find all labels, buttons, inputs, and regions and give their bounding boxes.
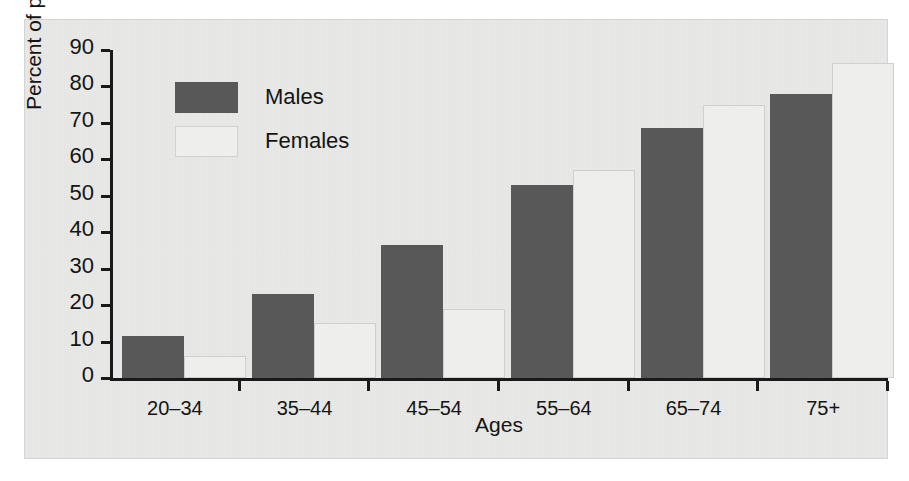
bar-females-75+ — [832, 63, 894, 378]
x-axis-category-label: 75+ — [758, 397, 888, 419]
x-axis-tick — [238, 381, 241, 391]
y-axis-tick-label: 10 — [70, 328, 94, 350]
x-axis-category-label: 35–44 — [240, 397, 370, 419]
legend-swatch-males-icon — [175, 82, 238, 113]
bar-females-20–34 — [184, 356, 246, 378]
x-axis-category-label: 45–54 — [369, 397, 499, 419]
y-axis-tick-label: 30 — [70, 255, 94, 277]
x-axis-tick — [756, 381, 759, 391]
bar-males-45–54 — [381, 245, 443, 378]
y-axis-tick-label: 20 — [70, 291, 94, 313]
legend-label-females: Females — [265, 130, 349, 152]
y-axis-tick: 60 — [101, 158, 110, 161]
x-axis-tick — [886, 381, 889, 391]
bar-males-65–74 — [641, 128, 703, 378]
bar-males-20–34 — [122, 336, 184, 378]
y-axis-tick-label: 90 — [70, 36, 94, 58]
x-axis-category-label: 55–64 — [499, 397, 629, 419]
x-axis-category-label: 20–34 — [110, 397, 240, 419]
bar-males-35–44 — [252, 294, 314, 378]
x-axis-tick — [627, 381, 630, 391]
bar-females-35–44 — [314, 323, 376, 378]
bar-males-75+ — [770, 94, 832, 378]
y-axis-tick: 90 — [101, 49, 110, 52]
x-axis-category-label: 65–74 — [629, 397, 759, 419]
x-axis-tick — [367, 381, 370, 391]
legend-item-males: Males — [175, 75, 349, 119]
y-axis-tick-label: 50 — [70, 182, 94, 204]
y-axis-tick: 0 — [101, 377, 110, 380]
bar-females-65–74 — [703, 105, 765, 378]
chart-legend: Males Females — [175, 75, 349, 163]
figure-canvas: Percent of population Ages 0102030405060… — [0, 0, 909, 481]
x-axis-tick — [497, 381, 500, 391]
bar-females-45–54 — [443, 309, 505, 378]
y-axis-tick: 30 — [101, 268, 110, 271]
y-axis-tick-label: 0 — [82, 364, 94, 386]
y-axis-title: Percent of population — [22, 0, 46, 110]
legend-item-females: Females — [175, 119, 349, 163]
bar-females-55–64 — [573, 170, 635, 378]
y-axis-tick: 80 — [101, 85, 110, 88]
y-axis-line — [110, 50, 113, 379]
y-axis-tick-label: 60 — [70, 145, 94, 167]
legend-label-males: Males — [265, 86, 324, 108]
bar-males-55–64 — [511, 185, 573, 378]
y-axis-tick-label: 80 — [70, 72, 94, 94]
y-axis-tick: 20 — [101, 304, 110, 307]
y-axis-tick: 10 — [101, 341, 110, 344]
y-axis-tick: 70 — [101, 122, 110, 125]
y-axis-tick-label: 70 — [70, 109, 94, 131]
y-axis-tick: 50 — [101, 195, 110, 198]
y-axis-tick-label: 40 — [70, 218, 94, 240]
legend-swatch-females-icon — [175, 126, 238, 157]
y-axis-tick: 40 — [101, 231, 110, 234]
